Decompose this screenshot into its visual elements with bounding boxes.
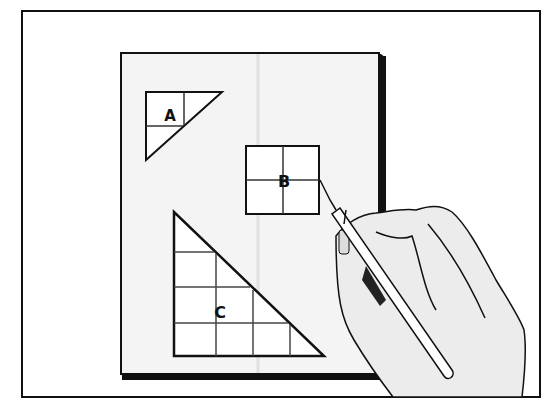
illustration: A B C — [0, 0, 546, 416]
label-a: A — [164, 107, 176, 125]
label-b: B — [278, 172, 290, 191]
label-c: C — [214, 303, 226, 322]
shape-b: B — [246, 146, 319, 214]
